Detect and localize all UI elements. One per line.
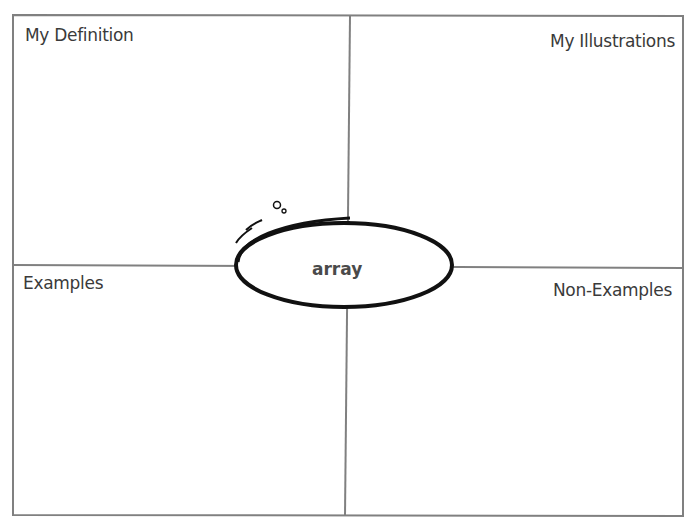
quadrant-label-examples: Examples — [23, 273, 103, 293]
quadrant-label-my-definition: My Definition — [25, 25, 134, 45]
center-bubble — [236, 202, 452, 308]
center-word: array — [312, 259, 362, 279]
quadrant-label-non-examples: Non-Examples — [553, 280, 672, 300]
quadrant-label-my-illustrations: My Illustrations — [550, 31, 675, 51]
